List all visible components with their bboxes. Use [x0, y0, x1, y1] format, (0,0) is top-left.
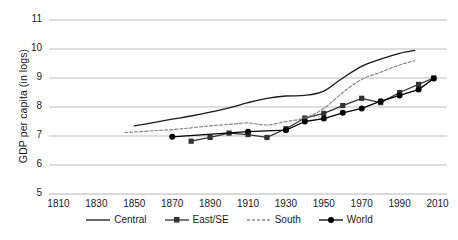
- data-point-marker: [397, 92, 403, 98]
- series-south: [125, 61, 415, 133]
- legend-item-east-se[interactable]: East/SE: [164, 214, 229, 225]
- data-point-marker: [321, 111, 326, 116]
- series-world: [169, 76, 437, 140]
- data-point-marker: [359, 105, 365, 111]
- data-point-marker: [302, 119, 308, 125]
- legend-label: South: [275, 214, 301, 225]
- series-line: [134, 50, 414, 125]
- data-point-marker: [169, 134, 175, 140]
- legend-label: Central: [114, 214, 146, 225]
- series-line: [172, 79, 434, 137]
- data-point-marker: [207, 135, 212, 140]
- gdp-per-capita-chart: GDP per capita (in logs) 111098765 18101…: [0, 0, 458, 240]
- gridlines: [49, 20, 447, 194]
- series-central: [134, 50, 414, 125]
- data-point-marker: [340, 103, 345, 108]
- chart-legend: CentralEast/SESouthWorld: [0, 214, 458, 225]
- data-point-marker: [416, 82, 421, 87]
- plot-area: [0, 0, 458, 240]
- legend-swatch-icon: [85, 215, 111, 225]
- data-point-marker: [189, 139, 194, 144]
- legend-swatch-icon: [318, 215, 344, 225]
- legend-swatch-icon: [246, 215, 272, 225]
- data-point-marker: [340, 110, 346, 116]
- data-point-marker: [416, 87, 422, 93]
- legend-label: World: [347, 214, 373, 225]
- series-line: [125, 61, 415, 133]
- legend-label: East/SE: [193, 214, 229, 225]
- data-point-marker: [378, 98, 384, 104]
- data-point-marker: [321, 116, 327, 122]
- legend-item-south[interactable]: South: [246, 214, 301, 225]
- data-point-marker: [245, 129, 251, 135]
- legend-swatch-icon: [164, 215, 190, 225]
- data-point-marker: [359, 96, 364, 101]
- legend-item-world[interactable]: World: [318, 214, 373, 225]
- data-point-marker: [431, 76, 437, 82]
- data-point-marker: [264, 135, 269, 140]
- legend-item-central[interactable]: Central: [85, 214, 146, 225]
- series-layer: [125, 50, 437, 143]
- data-point-marker: [283, 127, 289, 133]
